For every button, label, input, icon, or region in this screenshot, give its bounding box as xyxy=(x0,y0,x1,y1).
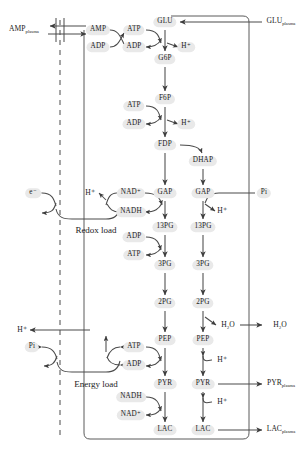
pgk-adp-curve xyxy=(146,237,161,250)
pk-r-h-branch xyxy=(203,356,212,361)
metabolite-3pg-left[interactable]: 3PG xyxy=(154,260,175,270)
cofactor-adp-hexokinase[interactable]: ADP xyxy=(123,42,146,52)
proton-gap-right: H⁺ xyxy=(217,207,226,215)
cofactor-proton-pfk[interactable]: H⁺ xyxy=(177,119,195,129)
ldh-nadh-curve xyxy=(146,397,161,411)
energy-curve-b xyxy=(44,356,57,366)
metabolite-pyr-left[interactable]: PYR xyxy=(154,379,177,389)
water-enolase: H₂O xyxy=(221,321,235,329)
pfk-adp-curve xyxy=(146,117,161,124)
cofactor-atp-pyruvate-kinase[interactable]: ATP xyxy=(123,342,144,352)
label-glu-plasma-sub: plasma xyxy=(282,21,295,26)
label-pi-right[interactable]: Pi xyxy=(257,188,271,198)
cofactor-nad-gapdh[interactable]: NAD⁺ xyxy=(117,188,145,198)
pgk-atp-curve xyxy=(146,248,161,255)
redox-h-arrow xyxy=(99,193,106,200)
metabolite-13pg-right[interactable]: 13PG xyxy=(190,222,215,232)
fdp-to-dhap-arrow xyxy=(180,145,202,153)
label-pi-left[interactable]: Pi xyxy=(25,342,39,352)
label-amp-plasma-text: AMP xyxy=(9,24,25,33)
cofactor-atp-pgk[interactable]: ATP xyxy=(123,250,144,260)
redox-e-curve-b xyxy=(42,203,56,213)
label-pyr-plasma-sub: plasma xyxy=(282,383,295,388)
pk-atp-curve xyxy=(146,347,161,361)
label-lac-plasma: LACplasma xyxy=(267,425,296,435)
metabolite-13pg-left[interactable]: 13PG xyxy=(152,222,177,232)
label-lac-plasma-text: LAC xyxy=(267,424,282,433)
cofactor-adp-pgk[interactable]: ADP xyxy=(123,232,146,242)
energy-pi-curve-a xyxy=(42,347,57,359)
gapdh-r-h-branch xyxy=(205,204,215,211)
cofactor-atp-hexokinase[interactable]: ATP xyxy=(123,25,144,35)
cofactor-nadh-ldh[interactable]: NADH xyxy=(116,392,146,402)
metabolite-pep-right[interactable]: PEP xyxy=(193,335,214,345)
proton-pyr-right: H⁺ xyxy=(217,398,226,406)
cofactor-nad-ldh[interactable]: NAD⁺ xyxy=(117,410,145,420)
label-glu-plasma: GLUplasma xyxy=(267,17,296,27)
metabolite-2pg-right[interactable]: 2PG xyxy=(192,298,213,308)
redox-nad-curve-a xyxy=(106,193,117,205)
cofactor-nadh-gapdh[interactable]: NADH xyxy=(116,207,146,217)
metabolite-glu[interactable]: GLU xyxy=(153,17,176,27)
pfk-atp-curve xyxy=(146,106,161,120)
label-pyr-plasma: PYRplasma xyxy=(267,379,295,389)
label-glu-plasma-text: GLU xyxy=(267,16,283,25)
pk-adp-curve xyxy=(146,358,161,366)
caption-energy-load: Energy load xyxy=(74,380,118,389)
redox-load-base xyxy=(56,208,120,219)
redox-e-curve-a xyxy=(42,193,56,206)
cofactor-adp-pfk[interactable]: ADP xyxy=(123,119,146,129)
label-electron-left[interactable]: e⁻ xyxy=(25,188,41,198)
metabolite-g6p[interactable]: G6P xyxy=(154,54,175,64)
metabolite-lac-right[interactable]: LAC xyxy=(192,425,215,435)
ldh-r-h-branch xyxy=(203,398,212,403)
label-amp-plasma: AMPplasma xyxy=(9,25,39,35)
proton-pep-right: H⁺ xyxy=(217,356,226,364)
metabolite-dhap[interactable]: DHAP xyxy=(189,156,217,166)
label-h2o-plasma: H₂O xyxy=(273,321,287,329)
metabolite-pep-left[interactable]: PEP xyxy=(155,335,176,345)
cofactor-atp-pfk[interactable]: ATP xyxy=(123,101,144,111)
hk-adp-curve xyxy=(146,40,161,47)
metabolite-2pg-left[interactable]: 2PG xyxy=(154,298,175,308)
hk-atp-curve xyxy=(146,30,161,43)
energy-adp-curve xyxy=(107,357,120,365)
metabolite-gap-left[interactable]: GAP xyxy=(154,188,177,198)
energy-atp-curve xyxy=(107,347,120,358)
metabolite-gap-right[interactable]: GAP xyxy=(192,188,215,198)
metabolite-fdp[interactable]: FDP xyxy=(154,140,176,150)
label-proton-left-redox: H⁺ xyxy=(17,326,26,334)
gapdh-nadh-curve xyxy=(145,203,162,212)
label-lac-plasma-sub: plasma xyxy=(282,429,295,434)
cofactor-adp-adenylate[interactable]: ADP xyxy=(87,42,110,52)
metabolite-3pg-right[interactable]: 3PG xyxy=(192,260,213,270)
metabolite-f6p[interactable]: F6P xyxy=(155,94,175,104)
pathway-edges xyxy=(0,0,302,455)
cofactor-proton-hexokinase[interactable]: H⁺ xyxy=(177,42,195,52)
ldh-nad-curve xyxy=(146,408,161,415)
cofactor-adp-pyruvate-kinase[interactable]: ADP xyxy=(123,360,146,370)
cofactor-amp[interactable]: AMP xyxy=(86,25,110,35)
proton-redox-load: H⁺ xyxy=(85,189,94,197)
caption-redox-load: Redox load xyxy=(75,226,116,235)
enolase-h2o-branch xyxy=(205,317,216,325)
label-amp-plasma-sub: plasma xyxy=(26,29,39,34)
metabolite-lac-left[interactable]: LAC xyxy=(154,425,177,435)
label-pyr-plasma-text: PYR xyxy=(267,378,282,387)
pathway-diagram: GLU G6P F6P FDP DHAP GAP GAP 13PG 13PG 3… xyxy=(0,0,302,455)
metabolite-pyr-right[interactable]: PYR xyxy=(192,379,215,389)
